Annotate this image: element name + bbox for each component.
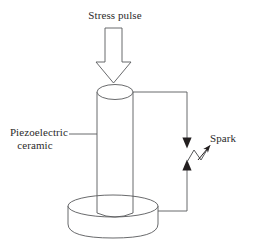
label-spark: Spark: [210, 132, 236, 145]
wire-bottom: [158, 170, 187, 211]
spark-pointer-arrow: [198, 146, 210, 161]
piezoelectric-spark-diagram: Stress pulse Piezoelectricceramic Spark: [0, 0, 258, 249]
electrode-upper-arrowhead: [182, 138, 191, 149]
wire-top: [133, 92, 187, 139]
label-piezoelectric-ceramic: Piezoelectricceramic: [4, 126, 68, 152]
diagram-canvas: [0, 0, 258, 249]
base-disc: [68, 195, 158, 238]
spark-zigzag: [187, 148, 208, 162]
label-piezoelectric-line1: Piezoelectric: [10, 126, 68, 138]
label-piezoelectric-line2: ceramic: [4, 139, 68, 152]
stress-pulse-arrow: [96, 28, 131, 83]
label-stress-pulse: Stress pulse: [0, 9, 230, 22]
